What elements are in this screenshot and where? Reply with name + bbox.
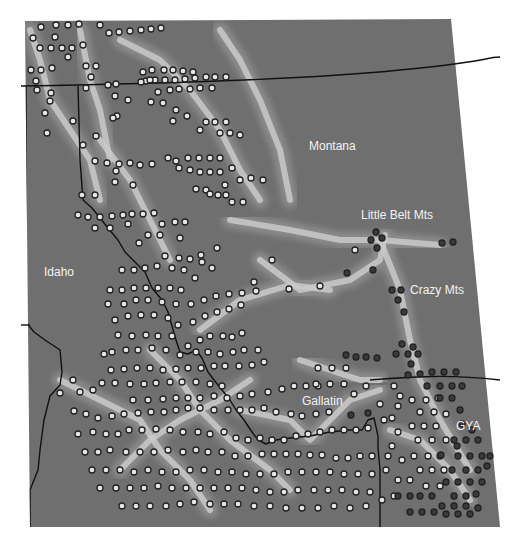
sample-point-light	[193, 349, 199, 355]
sample-point-light	[121, 301, 127, 307]
sample-point-light	[53, 22, 59, 28]
sample-point-light	[188, 301, 194, 307]
sample-point-light	[197, 337, 203, 343]
sample-point-dark	[405, 351, 411, 357]
sample-point-light	[75, 212, 81, 218]
sample-point-dark	[487, 453, 493, 459]
sample-point-light	[140, 211, 146, 217]
sample-point-light	[303, 383, 309, 389]
sample-point-light	[167, 379, 173, 385]
sample-point-light	[243, 471, 249, 477]
sample-point-dark	[441, 369, 447, 375]
sample-point-light	[385, 453, 391, 459]
sample-point-light	[85, 214, 91, 220]
sample-point-light	[131, 267, 137, 273]
sample-point-light	[351, 391, 357, 397]
sample-point-light	[142, 265, 148, 271]
sample-point-light	[397, 393, 403, 399]
sample-point-light	[125, 221, 131, 227]
sample-point-light	[352, 247, 358, 253]
sample-point-light	[217, 351, 223, 357]
sample-point-light	[82, 449, 88, 455]
sample-point-light	[173, 469, 179, 475]
sample-point-light	[293, 433, 299, 439]
sample-point-light	[140, 69, 146, 75]
sample-point-light	[88, 74, 94, 80]
sample-point-light	[107, 225, 113, 231]
sample-point-light	[109, 213, 115, 219]
sample-point-light	[223, 192, 229, 198]
sample-point-light	[105, 82, 111, 88]
sample-point-light	[224, 395, 230, 401]
sample-point-light	[315, 505, 321, 511]
sample-point-light	[127, 28, 133, 34]
sample-point-light	[101, 351, 107, 357]
sample-point-light	[295, 451, 301, 457]
sample-point-dark	[373, 229, 379, 235]
sample-point-light	[381, 417, 387, 423]
sample-point-light	[93, 133, 99, 139]
sample-point-light	[213, 293, 219, 299]
sample-point-dark	[410, 344, 416, 350]
sample-point-light	[148, 26, 154, 32]
sample-point-light	[173, 107, 179, 113]
sample-point-light	[207, 333, 213, 339]
sample-point-light	[271, 471, 277, 477]
sample-point-light	[198, 252, 204, 258]
sample-point-light	[395, 403, 401, 409]
sample-point-light	[261, 405, 267, 411]
sample-point-dark	[451, 503, 457, 509]
sample-point-light	[167, 87, 173, 93]
sample-point-light	[237, 132, 243, 138]
sample-point-light	[211, 393, 217, 399]
sample-point-dark	[455, 453, 461, 459]
sample-point-dark	[365, 410, 371, 416]
sample-point-light	[429, 467, 435, 473]
sample-point-light	[260, 177, 266, 183]
sample-point-light	[383, 467, 389, 473]
sample-point-light	[215, 469, 221, 475]
sample-point-light	[131, 469, 137, 475]
sample-point-light	[155, 89, 161, 95]
sample-point-light	[105, 301, 111, 307]
sample-point-light	[319, 452, 325, 458]
sample-point-light	[230, 349, 236, 355]
sample-point-light	[153, 426, 159, 432]
sample-point-light	[219, 449, 225, 455]
sample-point-light	[238, 302, 244, 308]
sample-point-light	[207, 155, 213, 161]
sample-point-light	[269, 437, 275, 443]
sample-point-light	[125, 97, 131, 103]
sample-point-light	[245, 453, 251, 459]
sample-point-light	[415, 437, 421, 443]
label-little-belt-mts: Little Belt Mts	[361, 209, 433, 221]
sample-point-light	[155, 333, 161, 339]
sample-point-light	[34, 87, 40, 93]
sample-point-dark	[475, 505, 481, 511]
sample-point-light	[160, 396, 166, 402]
sample-point-light	[145, 232, 151, 238]
sample-point-light	[141, 381, 147, 387]
sample-point-light	[183, 485, 189, 491]
sample-point-light	[265, 389, 271, 395]
sample-point-light	[65, 54, 71, 60]
sample-point-light	[317, 283, 323, 289]
sample-point-light	[106, 30, 112, 36]
sample-point-light	[281, 437, 287, 443]
sample-point-light	[107, 447, 113, 453]
sample-point-light	[172, 77, 178, 83]
sample-point-dark	[401, 309, 407, 315]
sample-point-light	[92, 225, 98, 231]
sample-point-light	[201, 467, 207, 473]
sample-point-light	[279, 386, 285, 392]
sample-point-light	[251, 503, 257, 509]
sample-point-dark	[363, 354, 369, 360]
sample-point-light	[138, 312, 144, 318]
sample-point-light	[162, 77, 168, 83]
sample-point-dark	[417, 493, 423, 499]
sample-point-light	[119, 267, 125, 273]
sample-point-light	[187, 256, 193, 262]
sample-point-light	[327, 381, 333, 387]
sample-point-light	[176, 165, 182, 171]
sample-point-light	[172, 219, 178, 225]
